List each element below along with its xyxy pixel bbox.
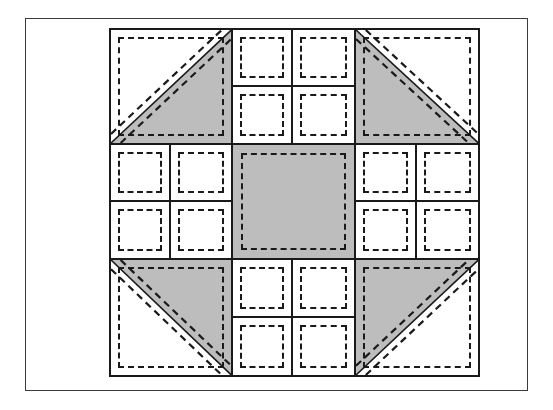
seam-allowance-outline [178,209,224,252]
patch-square [417,202,478,259]
four-patch-middle-right [356,145,478,260]
figure-canvas [0,0,553,410]
patch-square [233,30,293,87]
seam-allowance-outline [240,94,284,137]
solid-square-unit [233,145,353,258]
outer-border-frame [25,18,528,391]
half-square-triangle-unit [111,260,231,375]
patch-square [111,145,171,202]
hst-shape-top-right [356,30,478,143]
four-patch-unit [233,30,353,143]
patch-square [171,145,231,202]
seam-allowance-outline [300,267,346,309]
patch-square [356,202,417,259]
hst-shape-bottom-right [356,260,478,375]
patch-square [356,145,417,202]
seam-allowance-outline [240,37,284,78]
seam-allowance-outline [178,152,224,193]
half-square-triangle-unit [356,260,478,375]
corner-hst-bottom-right [356,260,478,375]
seam-allowance-outline [363,152,408,193]
four-patch-top-center [233,30,355,145]
center-square [233,145,355,260]
seam-allowance-outline [240,325,284,369]
patch-square [293,87,353,144]
seam-allowance-outline [363,209,408,252]
seam-allowance-outline [240,267,284,309]
seam-allowance-outline [300,94,346,137]
seam-allowance-outline [300,325,346,369]
four-patch-unit [356,145,478,258]
four-patch-middle-left [111,145,233,260]
half-square-triangle-unit [356,30,478,143]
four-patch-bottom-center [233,260,355,375]
patch-square [293,30,353,87]
corner-hst-top-left [111,30,233,145]
patch-square [233,260,293,318]
quilt-block [109,28,480,377]
seam-allowance-outline [424,152,471,193]
seam-allowance-outline [118,209,162,252]
seam-allowance-outline [424,209,471,252]
seam-allowance-outline [241,153,345,250]
patch-square [293,318,353,376]
hst-shape-bottom-left [111,260,231,375]
corner-hst-top-right [356,30,478,145]
seam-allowance-outline [118,152,162,193]
half-square-triangle-unit [111,30,231,143]
patch-square [233,87,293,144]
patch-square [233,318,293,376]
patch-square [417,145,478,202]
four-patch-unit [233,260,353,375]
corner-hst-bottom-left [111,260,233,375]
patch-square [171,202,231,259]
patch-square [111,202,171,259]
seam-allowance-outline [300,37,346,78]
four-patch-unit [111,145,231,258]
patch-square [293,260,353,318]
hst-shape-top-left [111,30,231,143]
